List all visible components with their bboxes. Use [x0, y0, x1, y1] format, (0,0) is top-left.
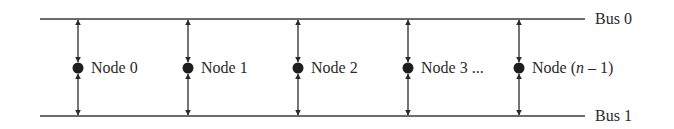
node-1-dot	[183, 63, 194, 74]
node-2-dot	[293, 63, 304, 74]
bus-1-label: Bus 1	[595, 108, 632, 124]
dual-bus-diagram: Bus 0 Bus 1 Node 0 Node 1 Node 2 Node 3 …	[0, 0, 674, 129]
node-3-dot	[403, 63, 414, 74]
node-0-label: Node 0	[91, 60, 138, 76]
node-n-minus-1-dot	[514, 63, 525, 74]
node-3-label: Node 3 ...	[421, 60, 484, 76]
node-0-dot	[73, 63, 84, 74]
node-n-minus-1-label-prefix: Node (	[532, 59, 576, 76]
node-2-label: Node 2	[311, 60, 358, 76]
bus-0-label: Bus 0	[595, 11, 632, 27]
node-0-connector	[73, 20, 84, 115]
node-1-connector	[183, 20, 194, 115]
node-n-minus-1-connector	[514, 20, 525, 115]
node-n-minus-1-label-suffix: – 1)	[584, 59, 613, 76]
node-n-minus-1-label: Node (n – 1)	[532, 60, 613, 76]
node-3-connector	[403, 20, 414, 115]
node-n-variable: n	[576, 59, 584, 76]
node-1-label: Node 1	[201, 60, 248, 76]
node-2-connector	[293, 20, 304, 115]
